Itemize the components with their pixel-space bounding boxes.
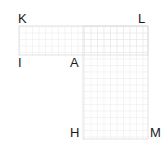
vertex-label-k: K xyxy=(18,12,27,25)
vertex-label-i: I xyxy=(18,56,22,69)
vertical-column-region xyxy=(83,26,148,139)
vertex-label-h: H xyxy=(70,126,79,139)
vertex-label-l: L xyxy=(138,12,145,25)
vertex-label-m: M xyxy=(150,126,161,139)
vertex-label-a: A xyxy=(70,56,79,69)
l-shape-region xyxy=(19,26,148,139)
